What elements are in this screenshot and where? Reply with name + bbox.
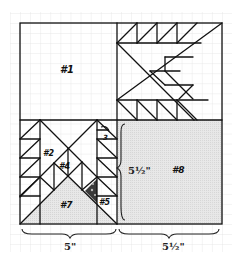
label-piece-3: 3: [103, 134, 108, 142]
dimension-bottom-right: 5½": [162, 241, 185, 252]
quilt-block-diagram: #1 #2 3 #4 #5 #7 #8 5" 5½" 5½": [0, 0, 241, 267]
label-piece-8: #8: [172, 165, 185, 175]
label-piece-7: #7: [60, 200, 73, 210]
label-piece-2: #2: [43, 149, 55, 158]
label-piece-4: #4: [59, 162, 71, 171]
dimension-bottom-left: 5": [64, 241, 76, 252]
dimension-vertical: 5½": [128, 165, 151, 176]
label-piece-1: #1: [60, 64, 74, 75]
label-piece-5: #5: [99, 198, 111, 207]
